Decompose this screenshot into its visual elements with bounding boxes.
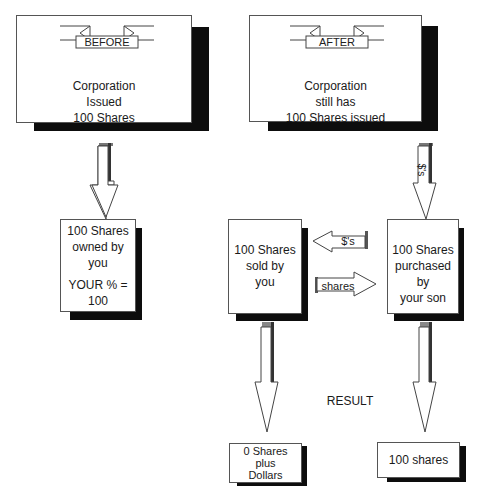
before-line-1: Corporation: [73, 78, 136, 94]
after-line-1: Corporation: [304, 78, 367, 94]
down-arrow-icon: [88, 143, 128, 213]
result-left-line-1: 0 Shares: [243, 445, 287, 457]
purchased-line-2: purchased by: [388, 258, 458, 290]
owned-line-2: owned by you: [61, 239, 135, 271]
sold-line-2: sold by: [246, 258, 284, 274]
after-banner-label: AFTER: [306, 36, 368, 48]
shares-right-arrow-label: shares: [320, 278, 356, 294]
dollars-down-arrow-label: $'s: [413, 162, 429, 178]
dollars-left-arrow-label: $'s: [336, 233, 360, 249]
result-left-line-2: plus: [255, 457, 275, 469]
dollars-down-arrow-icon: [412, 143, 452, 223]
owned-line-4: 100: [88, 293, 108, 309]
result-right-line-1: 100 shares: [389, 452, 448, 468]
before-line-3: 100 Shares: [73, 110, 134, 126]
after-line-2: still has: [315, 94, 355, 110]
sold-line-1: 100 Shares: [234, 242, 295, 258]
owned-box: 100 Shares owned by you YOUR % = 100: [60, 219, 136, 312]
result-left-box: 0 Shares plus Dollars: [229, 443, 302, 483]
before-line-2: Issued: [86, 94, 121, 110]
result-left-line-3: Dollars: [248, 469, 282, 481]
after-line-3: 100 Shares issued: [286, 110, 385, 126]
sold-line-3: you: [255, 274, 274, 290]
result-label: RESULT: [320, 393, 380, 409]
owned-line-1: 100 Shares: [67, 223, 128, 239]
purchased-box: 100 Shares purchased by your son: [387, 219, 459, 314]
owned-line-3: YOUR % =: [68, 277, 127, 293]
sold-box: 100 Shares sold by you: [228, 219, 302, 314]
purchased-line-1: 100 Shares: [392, 242, 453, 258]
purchased-line-3: your son: [400, 290, 446, 306]
before-banner-label: BEFORE: [76, 36, 138, 48]
result-right-box: 100 shares: [377, 442, 460, 478]
result-right-down-arrow-icon: [416, 322, 456, 442]
result-left-down-arrow-icon: [258, 322, 298, 442]
